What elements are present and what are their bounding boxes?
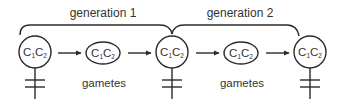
genotype-label: C1C2 [229,47,253,60]
genotype-label: C1C2 [160,46,184,59]
female-parent-node-2: C1C2 [156,36,188,99]
female-parent-node-3: C1C2 [294,36,326,99]
gamete-node-1: C1C2 [86,42,120,64]
genotype-label: C1C2 [298,46,322,59]
female-parent-node-1: C1C2 [19,36,51,99]
genotype-label: C1C2 [23,46,47,59]
genotype-label: C1C2 [91,47,115,60]
gametes-label-2: gametes [220,77,264,89]
generation-2-bracket [172,25,299,36]
generation-1-label: generation 1 [70,6,137,20]
gamete-node-2: C1C2 [224,42,258,64]
generation-2-label: generation 2 [207,6,274,20]
gametes-label-1: gametes [82,77,126,89]
inheritance-diagram: generation 1 generation 2 C1C2 C1C2 game… [0,0,341,101]
generation-1-bracket [20,25,172,35]
